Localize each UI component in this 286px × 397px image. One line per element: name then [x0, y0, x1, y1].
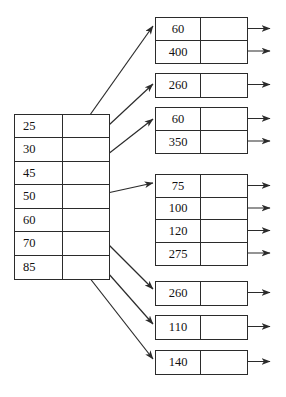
- bucket-pointer-cell[interactable]: [201, 74, 247, 97]
- bucket-pointer-cell[interactable]: [201, 316, 247, 339]
- bucket-entry-row[interactable]: 60: [156, 108, 247, 131]
- index-table: 25304550607085: [14, 114, 110, 280]
- index-key-cell: 50: [15, 185, 63, 207]
- bucket-pointer-cell[interactable]: [201, 198, 247, 220]
- bucket-entry-row[interactable]: 260: [156, 74, 247, 97]
- bucket-key-cell: 140: [156, 351, 201, 374]
- bucket-entry-row[interactable]: 275: [156, 243, 247, 266]
- bucket-entry-row[interactable]: 60: [156, 18, 247, 41]
- bucket-key-cell: 260: [156, 282, 201, 305]
- bucket-entry-row[interactable]: 140: [156, 351, 247, 374]
- bucket-entry-row[interactable]: 400: [156, 41, 247, 64]
- bucket-pointer-cell[interactable]: [201, 243, 247, 266]
- bucket-block: 260: [155, 281, 248, 306]
- index-row[interactable]: 60: [15, 209, 109, 232]
- index-pointer-cell[interactable]: [63, 185, 109, 207]
- index-key-cell: 85: [15, 256, 63, 279]
- index-key-cell: 45: [15, 162, 63, 184]
- bucket-key-cell: 260: [156, 74, 201, 97]
- bucket-key-cell: 110: [156, 316, 201, 339]
- bucket-key-cell: 400: [156, 41, 201, 64]
- bucket-block: 60350: [155, 107, 248, 154]
- index-pointer-cell[interactable]: [63, 256, 109, 279]
- index-row[interactable]: 30: [15, 138, 109, 161]
- bucket-key-cell: 350: [156, 131, 201, 154]
- index-row[interactable]: 25: [15, 115, 109, 138]
- bucket-pointer-cell[interactable]: [201, 18, 247, 40]
- bucket-key-cell: 60: [156, 108, 201, 130]
- bucket-pointer-cell[interactable]: [201, 41, 247, 64]
- bucket-entry-row[interactable]: 260: [156, 282, 247, 305]
- diagram-canvas: 25304550607085 6040026060350751001202752…: [0, 0, 286, 397]
- index-row[interactable]: 45: [15, 162, 109, 185]
- bucket-entry-row[interactable]: 110: [156, 316, 247, 339]
- index-key-cell: 60: [15, 209, 63, 231]
- bucket-entry-row[interactable]: 120: [156, 220, 247, 243]
- bucket-key-cell: 75: [156, 175, 201, 197]
- bucket-entry-row[interactable]: 350: [156, 131, 247, 154]
- index-pointer-cell[interactable]: [63, 115, 109, 137]
- bucket-pointer-cell[interactable]: [201, 220, 247, 242]
- bucket-block: 75100120275: [155, 174, 248, 266]
- bucket-block: 60400: [155, 17, 248, 64]
- index-pointer-cell[interactable]: [63, 232, 109, 254]
- bucket-key-cell: 60: [156, 18, 201, 40]
- bucket-key-cell: 120: [156, 220, 201, 242]
- bucket-entry-row[interactable]: 75: [156, 175, 247, 198]
- index-key-cell: 70: [15, 232, 63, 254]
- bucket-pointer-cell[interactable]: [201, 282, 247, 305]
- bucket-pointer-cell[interactable]: [201, 108, 247, 130]
- bucket-pointer-cell[interactable]: [201, 131, 247, 154]
- bucket-block: 260: [155, 73, 248, 98]
- index-key-cell: 30: [15, 138, 63, 160]
- index-pointer-cell[interactable]: [63, 138, 109, 160]
- bucket-pointer-cell[interactable]: [201, 175, 247, 197]
- bucket-pointer-cell[interactable]: [201, 351, 247, 374]
- index-row[interactable]: 70: [15, 232, 109, 255]
- bucket-block: 140: [155, 350, 248, 375]
- index-pointer-cell[interactable]: [63, 209, 109, 231]
- bucket-block: 110: [155, 315, 248, 340]
- bucket-key-cell: 100: [156, 198, 201, 220]
- bucket-key-cell: 275: [156, 243, 201, 266]
- index-row[interactable]: 85: [15, 256, 109, 279]
- index-pointer-cell[interactable]: [63, 162, 109, 184]
- index-row[interactable]: 50: [15, 185, 109, 208]
- index-key-cell: 25: [15, 115, 63, 137]
- bucket-entry-row[interactable]: 100: [156, 198, 247, 221]
